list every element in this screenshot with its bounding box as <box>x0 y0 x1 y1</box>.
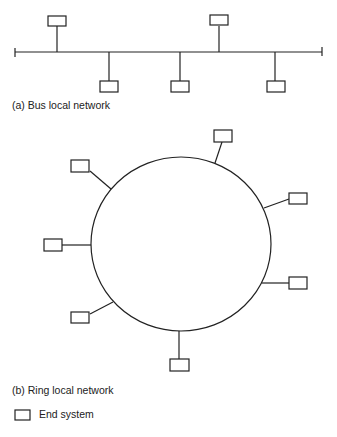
ring-caption: (b) Ring local network <box>12 384 114 396</box>
legend-end-system-icon <box>15 410 30 420</box>
end-system-icon <box>170 359 189 371</box>
end-system-icon <box>210 15 228 25</box>
end-system-icon <box>44 239 62 251</box>
end-system-icon <box>71 312 89 323</box>
bus-caption: (a) Bus local network <box>12 99 110 111</box>
legend-label: End system <box>39 408 94 420</box>
end-system-icon <box>71 160 89 172</box>
end-system-icon <box>100 81 118 92</box>
ring-line <box>91 157 271 331</box>
network-diagram <box>0 0 337 437</box>
end-system-icon <box>267 81 285 92</box>
bus-network <box>15 15 322 92</box>
end-system-icon <box>171 81 189 92</box>
ring-network <box>44 130 307 371</box>
end-system-icon <box>214 130 232 142</box>
end-system-icon <box>289 193 307 204</box>
end-system-icon <box>289 277 307 289</box>
end-system-icon <box>48 16 66 26</box>
